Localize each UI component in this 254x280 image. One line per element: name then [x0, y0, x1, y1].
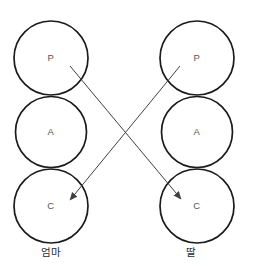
pac-diagram: P A C P A C 엄마 딸 — [0, 0, 254, 280]
pac-diagram-canvas: P A C P A C 엄마 딸 — [0, 0, 254, 280]
letter-daughter-parent: P — [194, 52, 201, 63]
column-label-daughter: 딸 — [186, 246, 196, 258]
column-label-mom: 엄마 — [41, 246, 61, 258]
letter-mom-child: C — [47, 200, 54, 211]
letter-daughter-child: C — [193, 200, 200, 211]
letter-daughter-adult: A — [194, 126, 201, 137]
letter-mom-adult: A — [48, 126, 55, 137]
letter-mom-parent: P — [48, 52, 55, 63]
